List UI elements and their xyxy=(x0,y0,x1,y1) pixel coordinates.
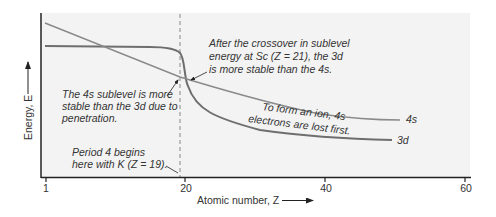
x-tick-label-20: 20 xyxy=(180,182,192,194)
x-tick-label-60: 60 xyxy=(460,182,472,194)
series-label-4s: 4s xyxy=(406,113,418,125)
svg-text:penetration.: penetration. xyxy=(61,112,117,124)
series-label-3d: 3d xyxy=(397,134,410,146)
annotation-crossover: After the crossover in sublevel energy a… xyxy=(191,37,350,80)
svg-text:here with K (Z = 19).: here with K (Z = 19). xyxy=(72,158,167,170)
svg-text:The 4s sublevel is more: The 4s sublevel is more xyxy=(62,88,173,100)
x-axis-label: Atomic number, Z xyxy=(197,194,280,206)
svg-text:energy at Sc (Z = 21), the 3d: energy at Sc (Z = 21), the 3d xyxy=(209,50,344,62)
x-tick-label-1: 1 xyxy=(43,182,49,194)
x-tick-label-40: 40 xyxy=(320,182,332,194)
energy-vs-atomic-number-chart: 1 20 40 60 Atomic number, Z Energy, E 4s… xyxy=(0,0,496,217)
y-axis-label: Energy, E xyxy=(22,95,34,140)
svg-text:After the crossover in subleve: After the crossover in sublevel xyxy=(208,37,350,49)
svg-text:is more stable than the 4s.: is more stable than the 4s. xyxy=(209,63,332,75)
svg-text:stable than the 3d due to: stable than the 3d due to xyxy=(62,100,178,112)
svg-text:Period 4 begins: Period 4 begins xyxy=(72,146,146,158)
chart-svg: 1 20 40 60 Atomic number, Z Energy, E 4s… xyxy=(0,0,496,217)
